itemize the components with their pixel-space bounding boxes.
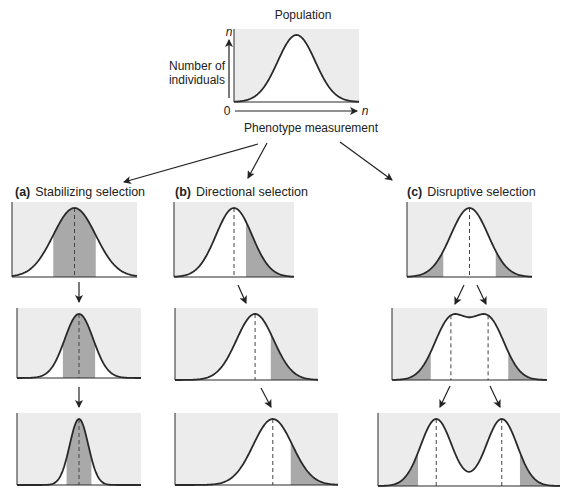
stabilizing-panel-1	[12, 202, 137, 277]
stabilizing-panel-2	[17, 308, 141, 378]
column-title-stabilizing: (a)Stabilizing selection	[15, 185, 145, 199]
population-title: Population	[275, 8, 332, 22]
y-axis-symbol: n	[226, 25, 233, 39]
arrow-down-right-icon	[490, 386, 500, 407]
stabilizing-panel-3	[17, 413, 141, 485]
directional-panel-3	[175, 413, 338, 485]
directional-panel-2	[175, 308, 318, 380]
y-axis-label-line2: individuals	[169, 73, 225, 87]
population-distribution	[234, 29, 359, 102]
column-title-disruptive: (c)Disruptive selection	[407, 185, 536, 199]
arrow-down-right-icon	[477, 285, 486, 304]
population-curve-panel	[234, 29, 359, 102]
arrow-down-left-icon	[440, 386, 450, 407]
disruptive-panel-2	[392, 308, 547, 380]
x-axis-label: Phenotype measurement	[244, 121, 379, 135]
arrow-down-right-icon	[261, 388, 271, 407]
disruptive-panel-1	[407, 202, 532, 277]
arrow-down-left-icon	[455, 285, 464, 304]
natural-selection-diagram: Population Number of individuals n 0 n P…	[0, 0, 567, 497]
selection-panels	[12, 202, 560, 486]
directional-panel-1	[174, 202, 294, 277]
arrow-to-stabilizing-icon	[124, 144, 258, 182]
disruptive-panel-3	[378, 413, 560, 486]
arrow-to-disruptive-icon	[340, 142, 392, 180]
diagram-canvas: Population Number of individuals n 0 n P…	[0, 0, 567, 497]
arrow-to-directional-icon	[248, 143, 267, 178]
origin-label: 0	[224, 104, 231, 118]
y-axis-label-line1: Number of	[169, 59, 226, 73]
x-axis-symbol: n	[362, 104, 369, 118]
column-title-directional: (b)Directional selection	[175, 185, 308, 199]
arrow-down-right-icon	[238, 285, 246, 303]
